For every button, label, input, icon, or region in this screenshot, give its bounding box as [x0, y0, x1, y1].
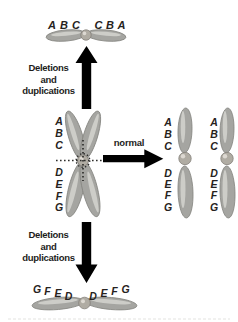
gene-label: B	[55, 128, 63, 138]
gene-label: C	[55, 140, 63, 150]
upper-arrow-caption: Deletions and duplications	[12, 62, 85, 97]
gene-label: F	[44, 286, 50, 296]
caption-line: and	[12, 74, 85, 86]
arm-highlight	[223, 170, 228, 208]
daughter-chromosome-1-graphic	[177, 108, 194, 218]
caption-line: duplications	[12, 85, 85, 97]
caption-line: duplications	[12, 252, 85, 264]
gene-label: E	[54, 288, 61, 298]
gene-label: A	[48, 20, 56, 30]
caption-line: and	[12, 241, 85, 253]
gene-label: A	[118, 20, 126, 30]
gene-label: F	[111, 286, 117, 296]
gene-label: B	[60, 20, 68, 30]
gene-label: G	[210, 202, 218, 212]
gene-label: G	[55, 202, 63, 212]
centromere	[221, 152, 233, 164]
gene-label: E	[55, 179, 62, 189]
lower-arrow-caption: Deletions and duplications	[12, 229, 85, 264]
gene-label: G	[121, 284, 129, 294]
figure-canvas: A B C C B A Deletions and duplications A…	[0, 0, 238, 322]
gene-label: D	[210, 168, 218, 178]
gene-label: F	[56, 191, 62, 201]
gene-label: C	[95, 20, 103, 30]
caption-line: Deletions	[12, 229, 85, 241]
gene-label: E	[100, 288, 107, 298]
arm-highlight	[181, 170, 186, 208]
centromere-highlight	[181, 154, 185, 158]
gene-label: B	[210, 129, 218, 139]
caption-line: Deletions	[12, 62, 85, 74]
gene-label: D	[89, 291, 97, 301]
gene-label: G	[164, 202, 172, 212]
gene-label: A	[164, 117, 172, 127]
arm-highlight	[181, 111, 186, 143]
gene-label: E	[164, 179, 171, 189]
bottom-isochromosome-graphic	[32, 295, 138, 311]
gene-label: D	[55, 167, 63, 177]
centromere-highlight	[223, 154, 227, 158]
gene-label: D	[65, 291, 73, 301]
gene-label: B	[164, 129, 172, 139]
top-isochromosome-graphic	[46, 28, 127, 43]
gene-label: C	[210, 141, 218, 151]
gene-label: F	[211, 190, 217, 200]
gene-label: B	[106, 20, 114, 30]
gene-label: A	[55, 116, 63, 126]
gene-label: E	[210, 179, 217, 189]
chromosome-arm	[177, 166, 194, 218]
gene-label: F	[165, 190, 171, 200]
gene-label: G	[33, 284, 41, 294]
chromosome-arm	[219, 166, 236, 218]
normal-arrow-label: normal	[114, 137, 144, 148]
gene-label: C	[72, 20, 80, 30]
diagram-graphics	[0, 0, 238, 322]
center-chromosome-graphic	[56, 109, 110, 218]
centromere-highlight	[81, 299, 85, 303]
centromere	[81, 30, 91, 40]
gene-label: C	[164, 141, 172, 151]
arm-highlight	[223, 111, 228, 143]
centromere-highlight	[83, 32, 87, 36]
daughter-chromosome-2-graphic	[219, 108, 236, 218]
centromere	[179, 152, 191, 164]
right-arrow	[103, 149, 163, 168]
gene-label: A	[210, 117, 218, 127]
gene-label: D	[164, 168, 172, 178]
